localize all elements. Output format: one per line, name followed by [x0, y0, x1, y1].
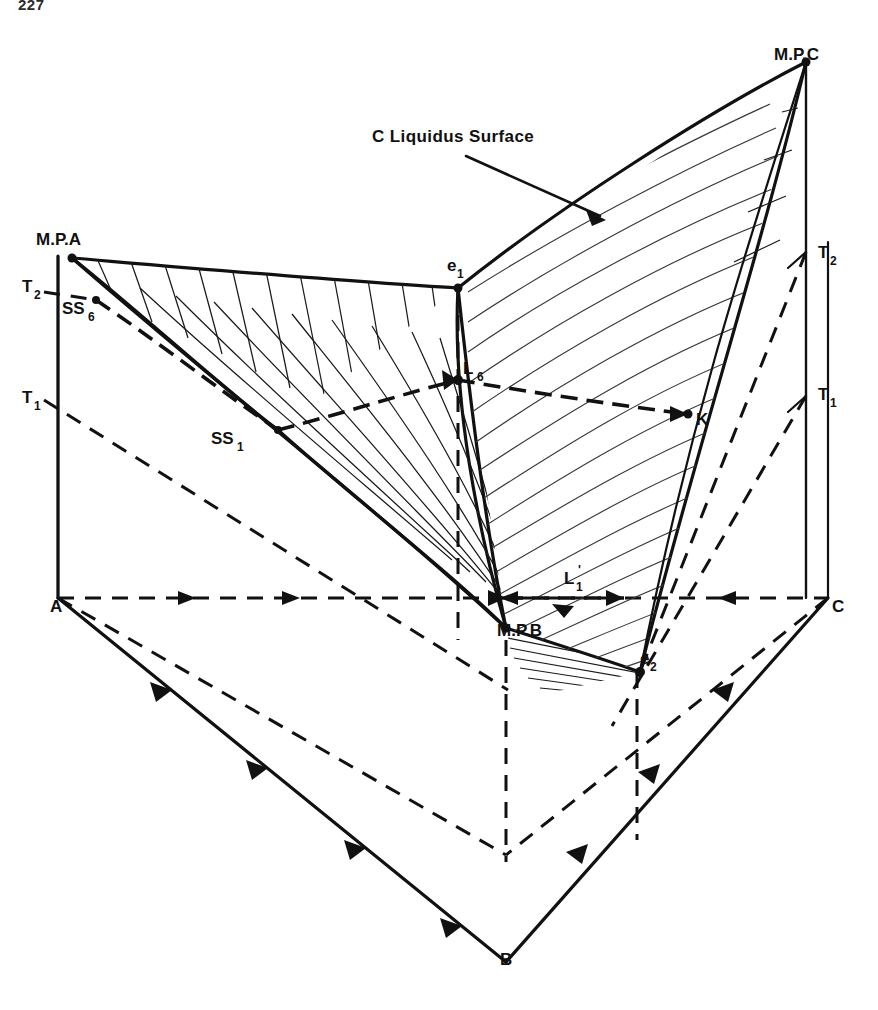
label-t2-left: T 2: [22, 277, 41, 302]
svg-text:SS: SS: [211, 429, 234, 448]
arrow-ab-2: [246, 760, 268, 780]
base-edge-c-b: [506, 598, 828, 962]
label-t1-left: T 1: [22, 388, 41, 413]
arrow-cb-3: [566, 844, 588, 864]
svg-text:e: e: [447, 256, 456, 275]
svg-text:6: 6: [477, 370, 484, 384]
arrow-cb-2: [638, 764, 660, 784]
arrow-ab-1: [150, 682, 172, 702]
svg-text:T: T: [22, 277, 33, 296]
svg-text:e: e: [640, 649, 649, 668]
annotation-leader-line: [466, 156, 600, 216]
phase-diagram-figure: 227: [0, 0, 878, 1010]
svg-text:T: T: [818, 385, 829, 404]
arrow-ab-3: [344, 840, 366, 860]
arrow-ac-4: [718, 591, 736, 605]
isotherm-t2-right-plane: [640, 252, 806, 672]
label-mpc: M.P.C: [774, 45, 819, 64]
svg-text:2: 2: [650, 660, 657, 674]
svg-text:L: L: [564, 569, 574, 588]
crystallization-path: [96, 300, 688, 598]
svg-text:2: 2: [34, 288, 41, 302]
page-number: 227: [18, 0, 45, 13]
label-e1: e 1: [447, 256, 464, 281]
svg-text:1: 1: [34, 399, 41, 413]
svg-text:': ': [578, 563, 581, 577]
isotherm-t1-left-plane: [44, 400, 508, 690]
edge-mpa-e1: [72, 258, 458, 288]
svg-text:L: L: [463, 359, 473, 378]
a-fan-hatching: [96, 256, 456, 452]
arrow-ab-4: [440, 918, 462, 938]
path-ss1-l6: [278, 380, 458, 430]
label-corner-c: C: [832, 597, 844, 616]
base-line-cb: [506, 598, 828, 855]
path-ss6-ss1: [96, 300, 278, 430]
tick-t1-right: [788, 396, 806, 412]
base-edge-arrows: [150, 682, 734, 938]
arrow-cb-1: [712, 682, 734, 702]
node-ss1: [274, 426, 282, 434]
label-mpb: M.P.B: [497, 621, 542, 640]
arrow-to-k: [670, 406, 688, 422]
c-fan-hatching: [468, 104, 780, 694]
base-line-ab: [58, 598, 506, 855]
svg-text:1: 1: [576, 580, 583, 594]
a-liquidus-surface: [72, 256, 524, 628]
label-l1-prime: L 1 ': [564, 563, 583, 594]
path-nodes: [68, 58, 811, 678]
svg-text:6: 6: [88, 310, 95, 324]
isotherm-ticks: [788, 252, 806, 412]
label-corner-b: B: [500, 950, 512, 969]
isotherm-planes: [44, 62, 806, 726]
svg-text:1: 1: [237, 440, 244, 454]
svg-text:T: T: [22, 388, 33, 407]
svg-text:2: 2: [830, 254, 837, 268]
svg-text:SS: SS: [62, 299, 85, 318]
label-corner-a: A: [50, 597, 62, 616]
node-ss6: [92, 296, 100, 304]
base-edge-a-b: [58, 598, 506, 962]
arrow-ac-2: [282, 591, 300, 605]
svg-text:1: 1: [830, 396, 837, 410]
diagram-canvas: C Liquidus Surface M.P.A M.P.C M.P.B A B…: [0, 0, 878, 1010]
arrow-ac-1: [178, 591, 196, 605]
label-ss6: SS 6: [62, 299, 95, 324]
label-mpa: M.P.A: [36, 230, 81, 249]
annotation-label: C Liquidus Surface: [372, 127, 534, 146]
label-ss1: SS 1: [211, 429, 244, 454]
annotation-arrowhead: [586, 210, 606, 226]
svg-text:T: T: [818, 243, 829, 262]
label-k: K: [696, 410, 709, 429]
svg-text:K: K: [696, 410, 709, 429]
annotation-group: C Liquidus Surface: [372, 127, 606, 226]
node-mpa: [68, 254, 77, 263]
node-e2: [635, 667, 645, 677]
prism-base-outline: [58, 242, 828, 962]
a-band-hatching: [140, 288, 524, 620]
svg-text:1: 1: [457, 267, 464, 281]
